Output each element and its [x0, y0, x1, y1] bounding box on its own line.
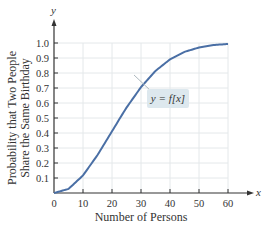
y-tick-label: 0.9: [36, 53, 49, 64]
x-tick-label: 10: [78, 198, 89, 209]
x-axis-arrow-icon: [247, 191, 254, 196]
y-tick-label: 0.2: [36, 158, 49, 169]
y-tick-label: 0.6: [36, 98, 49, 109]
x-tick-label: 40: [165, 198, 176, 209]
y-tick-label: 0.8: [36, 68, 49, 79]
x-axis-variable: x: [255, 186, 261, 198]
y-axis-title-line1: Probability that Two People: [5, 51, 19, 185]
y-tick-label: 0.5: [36, 113, 49, 124]
x-tick-label: 50: [194, 198, 205, 209]
y-axis-title-line2: Share the Same Birthday: [18, 58, 32, 178]
x-tick-label: 60: [223, 198, 234, 209]
y-tick-label: 1.0: [36, 38, 49, 49]
grid-lines: [54, 43, 228, 193]
y-tick-label: 0.1: [36, 173, 49, 184]
x-tick-label: 20: [107, 198, 118, 209]
birthday-probability-chart: 01020304050600.10.20.30.40.50.60.70.80.9…: [0, 0, 270, 226]
y-axis-arrow-icon: [52, 19, 57, 26]
y-tick-label: 0.3: [36, 143, 49, 154]
y-tick-label: 0.4: [36, 128, 50, 139]
x-tick-label: 30: [136, 198, 147, 209]
x-axis-title: Number of Persons: [95, 210, 188, 224]
y-tick-label: 0.7: [36, 83, 49, 94]
annotation-label: y = f[x]: [150, 92, 185, 104]
x-tick-label: 0: [51, 198, 56, 209]
y-axis-variable: y: [50, 4, 56, 16]
tick-labels: 01020304050600.10.20.30.40.50.60.70.80.9…: [36, 38, 233, 210]
